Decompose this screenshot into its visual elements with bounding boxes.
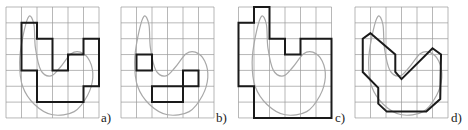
- closed-curve: [369, 16, 442, 115]
- panel-label: d): [451, 111, 462, 124]
- approximation-outline: [363, 33, 441, 111]
- panel-d: d): [0, 0, 468, 130]
- panel-d-drawing: [0, 0, 468, 130]
